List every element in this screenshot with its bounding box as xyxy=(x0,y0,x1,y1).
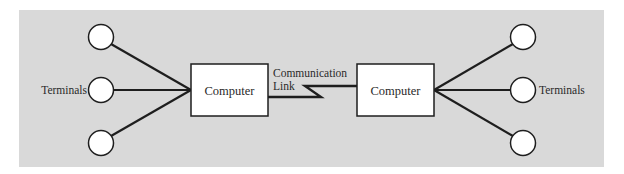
network-diagram: Computer Computer Terminals Terminals Co… xyxy=(0,0,624,174)
left-computer-label: Computer xyxy=(205,84,256,98)
right-computer-label: Computer xyxy=(371,84,422,98)
terminal-node xyxy=(511,25,536,50)
terminal-node xyxy=(511,78,536,103)
left-terminals xyxy=(89,25,114,156)
right-terminals xyxy=(511,25,536,156)
terminal-node xyxy=(511,131,536,156)
right-terminals-label: Terminals xyxy=(539,84,585,96)
terminal-node xyxy=(89,78,114,103)
terminal-node xyxy=(89,25,114,50)
terminal-node xyxy=(89,131,114,156)
link-label-line2: Link xyxy=(273,80,295,92)
left-terminals-label: Terminals xyxy=(41,84,87,96)
link-label-line1: Communication xyxy=(273,67,347,79)
